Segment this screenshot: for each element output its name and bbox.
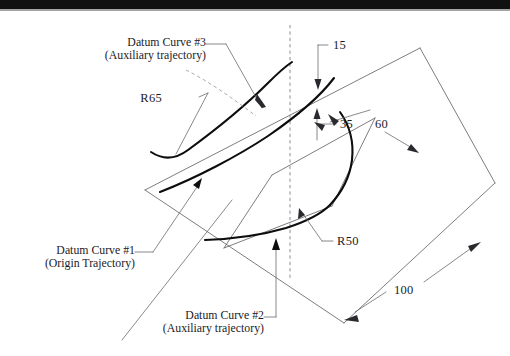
technical-drawing-canvas: R65 15 35 60 10 bbox=[0, 0, 510, 356]
dim100-line-left bbox=[355, 292, 386, 312]
datum-curve-1-label-block: Datum Curve #1 (Origin Trajectory) bbox=[33, 244, 135, 270]
dimension-100-label: 100 bbox=[394, 283, 414, 297]
leader-arrow-dc3 bbox=[255, 94, 266, 108]
drawing-page: R65 15 35 60 10 bbox=[0, 0, 510, 356]
datum-curve-3-leader bbox=[206, 44, 266, 108]
leader-line-r65-angled bbox=[176, 93, 208, 154]
reference-arc-dashed bbox=[186, 70, 256, 116]
leader-arrow-dc2 bbox=[272, 238, 280, 250]
dimension-15 bbox=[315, 45, 329, 90]
dimension-35-label: 35 bbox=[340, 117, 353, 131]
datum-curve-2-subtitle: (Auxiliary trajectory) bbox=[162, 322, 264, 335]
dimension-60-label: 60 bbox=[375, 117, 388, 131]
plane-edge-bottom-right bbox=[344, 183, 495, 323]
dim100-line-right bbox=[424, 249, 470, 282]
datum-curve-2-label-block: Datum Curve #2 (Auxiliary trajectory) bbox=[162, 309, 264, 335]
dim60-arrow-lower bbox=[407, 144, 419, 153]
r65-leader bbox=[176, 93, 208, 154]
plane-edge-bottom-left bbox=[145, 190, 344, 323]
datum-curve-1-subtitle: (Origin Trajectory) bbox=[33, 257, 135, 270]
dim100-arrow-right bbox=[468, 242, 481, 252]
datum-curve-3-path bbox=[151, 62, 292, 157]
inner-edge-lower bbox=[224, 206, 332, 248]
dim60-line-lower bbox=[385, 132, 412, 148]
dim15-arrow bbox=[315, 79, 322, 90]
dimension-100 bbox=[344, 242, 481, 322]
datum-curve-3-label-block: Datum Curve #3 (Auxiliary trajectory) bbox=[104, 36, 206, 62]
r50-leader bbox=[298, 208, 333, 241]
leader-line-dc1-angled bbox=[153, 184, 199, 252]
dim35-arrow-up bbox=[314, 108, 321, 119]
r65-label: R65 bbox=[140, 91, 162, 105]
dimension-15-label: 15 bbox=[333, 38, 346, 52]
leader-arrow-dc1 bbox=[193, 178, 202, 189]
r50-label: R50 bbox=[337, 234, 359, 248]
datum-curve-2-leader bbox=[264, 238, 280, 317]
dim35-arrow-left bbox=[314, 122, 325, 131]
plane-edge-top-right bbox=[420, 48, 495, 183]
dimension-35 bbox=[314, 108, 337, 140]
leader-arrow-r50 bbox=[298, 208, 305, 219]
datum-curve-3-subtitle: (Auxiliary trajectory) bbox=[104, 49, 206, 62]
